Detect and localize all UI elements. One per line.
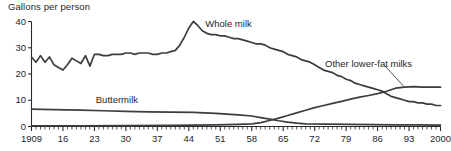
x-axis-tick-label: 23 [89, 133, 100, 144]
x-axis-tick-label: 65 [278, 133, 289, 144]
chart-source-caption [10, 147, 430, 151]
x-axis-tick-label: 51 [215, 133, 226, 144]
series-line-buttermilk [32, 109, 441, 125]
y-axis-tick-label: 0 [4, 121, 26, 132]
x-axis-tick-label: 16 [58, 133, 69, 144]
x-axis-tick-label: 79 [341, 133, 352, 144]
y-axis-tick-label: 20 [4, 68, 26, 79]
y-axis-tick-label: 10 [4, 94, 26, 105]
series-label-buttermilk: Buttermilk [96, 94, 138, 105]
series-label-other-lower-fat-milks: Other lower-fat milks [325, 58, 412, 69]
x-axis-tick-label: 37 [152, 133, 163, 144]
x-axis-tick-label: 1909 [21, 133, 42, 144]
x-axis-tick-label: 30 [121, 133, 132, 144]
y-axis-tick-label: 30 [4, 42, 26, 53]
x-axis-tick-label: 86 [372, 133, 383, 144]
x-axis-tick-label: 58 [246, 133, 257, 144]
x-axis-tick-label: 2000 [430, 133, 451, 144]
annotation-leader-line [385, 66, 404, 87]
x-axis-tick-label: 72 [309, 133, 320, 144]
y-axis-tick-label: 40 [4, 16, 26, 27]
series-line-other-lower-fat-milks [32, 87, 441, 126]
x-axis-tick-label: 93 [404, 133, 415, 144]
series-label-whole-milk: Whole milk [205, 18, 251, 29]
x-axis-tick-label: 44 [184, 133, 195, 144]
